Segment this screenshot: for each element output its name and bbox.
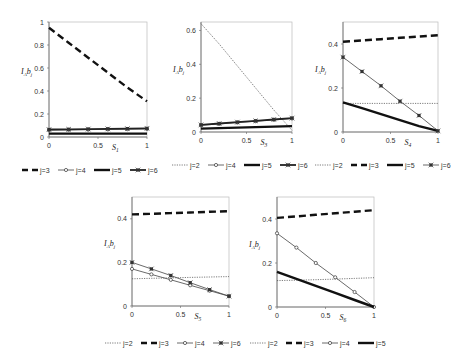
- y-axis-label: IAbj: [248, 240, 261, 250]
- legend-entry-j-6: j=6: [440, 162, 451, 170]
- chart-panel-3: 00.20.400.51S4IAbjj=2j=3j=5j=6: [314, 22, 451, 170]
- y-tick-label: 0.4: [34, 88, 44, 95]
- x-tick-label: 0.5: [386, 137, 396, 144]
- y-tick-label: 0.8: [34, 42, 44, 49]
- x-tick-label: 0: [199, 137, 203, 144]
- legend: j=3j=4j=5j=6: [22, 167, 158, 175]
- y-axis-label: IAbj: [20, 67, 33, 77]
- legend-entry-j-5: j=5: [404, 162, 415, 170]
- x-tick-label: 0: [130, 311, 134, 318]
- y-tick-label: 0.4: [262, 216, 272, 223]
- x-tick-label: 1: [290, 137, 294, 144]
- x-axis-label: S4: [405, 138, 412, 148]
- legend-entry-j-2: j=2: [189, 162, 200, 170]
- y-tick-label: 0.2: [34, 111, 44, 118]
- y-tick-label: 1: [40, 19, 44, 26]
- y-tick-label: 0.2: [117, 259, 127, 266]
- figure-panel-grid: 00.20.40.60.8100.51S1IAbjj=3j=4j=5j=600.…: [0, 0, 463, 361]
- x-tick-label: 1: [227, 311, 231, 318]
- x-axis-label: S1: [112, 143, 119, 153]
- chart-panel-2: 00.20.40.600.51S3IAbjj=2j=4j=5j=6: [172, 22, 308, 170]
- x-tick-label: 1: [372, 312, 376, 319]
- y-axis-label: IAbj: [172, 65, 185, 75]
- legend-entry-j-4: j=4: [225, 162, 236, 170]
- x-axis-label: S3: [261, 138, 268, 148]
- legend-entry-j-3: j=3: [158, 340, 169, 348]
- legend-entry-j-3: j=3: [368, 162, 379, 170]
- legend-entry-j-6: j=6: [297, 162, 308, 170]
- y-tick-label: 0: [123, 303, 127, 310]
- x-axis-label: S6: [340, 313, 347, 323]
- legend-entry-j-6: j=6: [230, 340, 241, 348]
- legend-entry-j-2: j=2: [122, 340, 133, 348]
- x-tick-label: 0: [341, 137, 345, 144]
- legend: j=2j=3j=4j=5: [250, 340, 386, 348]
- y-tick-label: 0: [268, 304, 272, 311]
- chart-panel-5: 00.20.400.51S6IAbjj=2j=3j=4j=5: [248, 197, 386, 348]
- x-axis-label: S5: [195, 312, 202, 322]
- y-tick-label: 0.2: [328, 85, 338, 92]
- y-tick-label: 0.2: [262, 260, 272, 267]
- x-tick-label: 0.5: [176, 311, 186, 318]
- x-tick-label: 0.5: [93, 142, 103, 149]
- y-tick-label: 0.4: [186, 61, 196, 68]
- legend-entry-j-3: j=3: [303, 340, 314, 348]
- y-axis-label: IAbj: [314, 65, 327, 75]
- legend-entry-j-3: j=3: [39, 167, 50, 175]
- legend-entry-j-5: j=5: [111, 167, 122, 175]
- legend: j=2j=3j=5j=6: [315, 162, 451, 170]
- y-tick-label: 0: [192, 129, 196, 136]
- chart-panel-1: 00.20.40.60.8100.51S1IAbjj=3j=4j=5j=6: [20, 19, 158, 175]
- x-tick-label: 0.5: [242, 137, 252, 144]
- y-tick-label: 0.4: [117, 215, 127, 222]
- x-tick-label: 0: [47, 142, 51, 149]
- x-tick-label: 1: [436, 137, 440, 144]
- legend: j=2j=3j=4j=6: [105, 340, 241, 348]
- x-tick-label: 1: [145, 142, 149, 149]
- legend-entry-j-2: j=2: [332, 162, 343, 170]
- plot-area: [49, 22, 147, 137]
- legend-entry-j-4: j=4: [339, 340, 350, 348]
- y-tick-label: 0.4: [328, 41, 338, 48]
- y-tick-label: 0.6: [186, 27, 196, 34]
- legend-entry-j-2: j=2: [267, 340, 278, 348]
- legend-entry-j-4: j=4: [194, 340, 205, 348]
- y-tick-label: 0: [334, 129, 338, 136]
- y-axis-label: IAbj: [103, 239, 116, 249]
- legend: j=2j=4j=5j=6: [172, 162, 308, 170]
- y-tick-label: 0: [40, 134, 44, 141]
- x-tick-label: 0.5: [321, 312, 331, 319]
- legend-entry-j-6: j=6: [147, 167, 158, 175]
- legend-entry-j-4: j=4: [75, 167, 86, 175]
- chart-panel-4: 00.20.400.51S5IAbjj=2j=3j=4j=6: [103, 197, 241, 348]
- y-tick-label: 0.2: [186, 95, 196, 102]
- x-tick-label: 0: [275, 312, 279, 319]
- legend-entry-j-5: j=5: [375, 340, 386, 348]
- y-tick-label: 0.6: [34, 65, 44, 72]
- legend-entry-j-5: j=5: [261, 162, 272, 170]
